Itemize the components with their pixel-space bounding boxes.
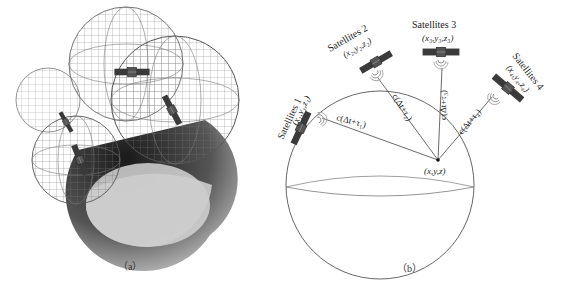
equator-front [286,187,474,196]
satellite-2-icon [359,49,394,74]
panel-a-illustration: （a） [16,7,239,272]
equator-back [286,176,474,187]
satellite-3-name: Satellites 3 [412,19,456,30]
caption-a: （a） [118,261,142,272]
panel-b-diagram: (x,y,z) Satellites 1 (x₁,y₁,z₁) c(Δt+τ₁)… [275,19,546,279]
signal-icon [434,60,448,69]
signal-icon [485,92,502,108]
satellite-4-range: c(Δt+τ₄) [456,107,483,136]
wireframe-sphere-right [111,36,239,164]
satellite-3-coords: (x₃,y₃,z₃) [422,33,453,43]
satellite-1-range: c(Δt+τ₁) [335,112,367,129]
satellite-3-range: c(Δt+τ₃) [438,90,448,120]
caption-b: （b） [397,263,422,274]
satellite-3-icon [423,47,460,56]
signal-icon [369,69,386,84]
satellite-icon [114,68,149,77]
receiver-label: (x,y,z) [424,166,446,176]
range-line-1 [322,118,438,160]
gnss-positioning-figure: （a） (x,y,z) Satellites 1 (x₁,y₁,z₁) c(Δt… [0,0,564,287]
receiver-point [436,158,440,162]
